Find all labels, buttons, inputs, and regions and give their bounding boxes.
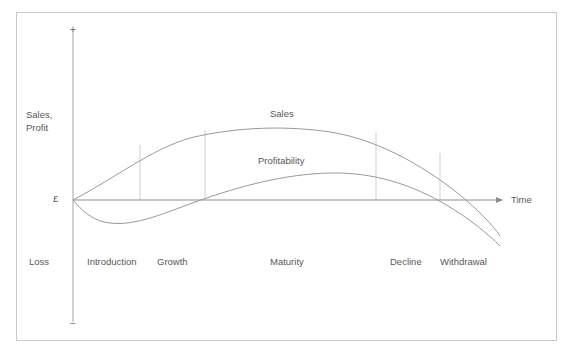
profitability-curve-label: Profitability bbox=[258, 155, 304, 167]
chart-plot-area bbox=[0, 0, 573, 356]
origin-currency-label: £ bbox=[53, 193, 58, 205]
product-lifecycle-chart: Sales, Profit £ + − Time Sales Profitabi… bbox=[0, 0, 573, 356]
stage-label-withdrawal: Withdrawal bbox=[440, 256, 487, 267]
stage-label-introduction: Introduction bbox=[87, 256, 137, 267]
stage-label-loss: Loss bbox=[29, 256, 49, 267]
y-axis-label-line1: Sales, bbox=[26, 108, 52, 121]
y-axis-label: Sales, Profit bbox=[26, 108, 52, 134]
stage-label-decline: Decline bbox=[390, 256, 422, 267]
y-axis-positive-sign: + bbox=[70, 24, 76, 36]
profitability-curve bbox=[73, 173, 500, 246]
y-axis-label-line2: Profit bbox=[26, 121, 52, 134]
x-axis-label: Time bbox=[511, 194, 532, 206]
sales-curve bbox=[73, 128, 500, 236]
stage-label-maturity: Maturity bbox=[270, 256, 304, 267]
y-axis-negative-sign: − bbox=[70, 318, 76, 330]
sales-curve-label: Sales bbox=[270, 108, 294, 120]
stage-label-growth: Growth bbox=[157, 256, 188, 267]
